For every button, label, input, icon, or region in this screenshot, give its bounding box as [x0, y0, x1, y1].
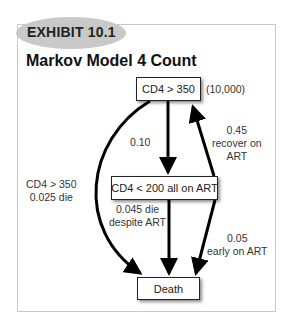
node-cd4-over-350-label: CD4 > 350 — [142, 83, 195, 95]
edge-label-top-to-middle: 0.10 — [130, 136, 150, 149]
edge-label-top-to-death: CD4 > 350 0.025 die — [26, 178, 77, 204]
node-count: (10,000) — [206, 83, 245, 96]
node-death-label: Death — [154, 283, 183, 295]
node-death: Death — [137, 277, 200, 300]
node-cd4-under-200-label: CD4 < 200 all on ART — [111, 182, 218, 194]
node-cd4-over-350: CD4 > 350 — [136, 77, 201, 101]
edge-label-middle-to-top: 0.45 recover on ART — [212, 124, 262, 163]
edge-label-middle-to-death: 0.045 die despite ART — [109, 203, 166, 229]
arrow-middle-to-top — [193, 107, 214, 176]
edge-label-early-to-death: 0.05 early on ART — [207, 232, 268, 258]
node-cd4-under-200: CD4 < 200 all on ART — [111, 176, 218, 200]
